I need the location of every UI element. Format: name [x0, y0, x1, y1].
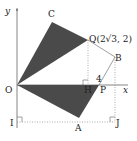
right-angle-J: [110, 117, 115, 122]
label-Q: Q(2√3, 2): [89, 34, 132, 44]
label-I: I: [10, 118, 14, 128]
geometry-diagram: y x O C Q(2√3, 2) B 4 P H A I J: [0, 0, 137, 141]
label-H: H: [84, 85, 92, 95]
label-C: C: [48, 9, 55, 19]
tick-4: 4: [96, 74, 102, 84]
label-P: P: [100, 85, 106, 95]
label-O: O: [5, 85, 12, 95]
label-B: B: [115, 53, 122, 63]
triangle-OCQ: [17, 22, 88, 85]
y-axis-label: y: [4, 6, 11, 16]
x-axis-label: x: [123, 85, 128, 95]
label-A: A: [74, 123, 82, 133]
right-angle-I: [17, 117, 22, 122]
label-J: J: [115, 118, 120, 128]
